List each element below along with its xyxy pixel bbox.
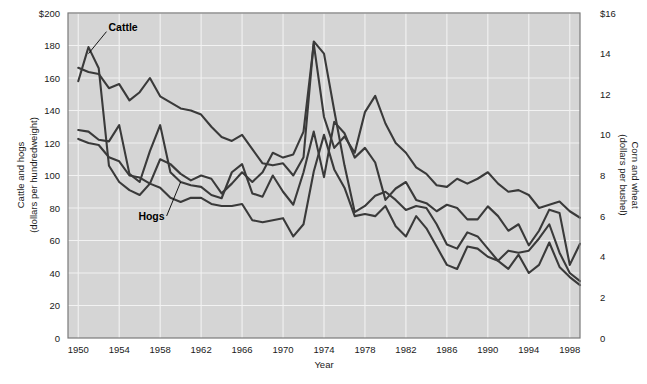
y-right-tick-label: 6 <box>600 211 605 222</box>
y-axis-right-title-line1: Corn and wheat <box>630 141 641 208</box>
x-tick-label: 1970 <box>272 344 293 355</box>
y-right-tick-label: 14 <box>600 48 611 59</box>
x-axis-title: Year <box>314 359 333 370</box>
y-left-tick-label: 120 <box>44 138 60 149</box>
line-chart: 1950195419581962196619701974197819821986… <box>0 0 647 384</box>
y-axis-left-title-line2: (dollars per hundredweight) <box>28 117 39 233</box>
y-left-tick-label: 160 <box>44 73 60 84</box>
series-label-cattle: Cattle <box>108 21 137 33</box>
y-right-tick-label: 2 <box>600 292 605 303</box>
y-right-tick-label: 4 <box>600 251 605 262</box>
x-tick-label: 1966 <box>232 344 253 355</box>
x-tick-label: 1994 <box>518 344 539 355</box>
y-right-tick-label: 10 <box>600 129 611 140</box>
y-left-tick-label: 0 <box>55 333 60 344</box>
x-tick-label: 1990 <box>477 344 498 355</box>
y-right-tick-label: 8 <box>600 170 605 181</box>
y-left-tick-label: 140 <box>44 105 60 116</box>
x-tick-label: 1962 <box>191 344 212 355</box>
y-right-tick-label: 12 <box>600 89 611 100</box>
x-tick-label: 1950 <box>68 344 89 355</box>
x-tick-label: 1982 <box>395 344 416 355</box>
y-left-tick-label: 80 <box>49 203 60 214</box>
y-right-tick-label: 0 <box>600 333 605 344</box>
x-tick-label: 1974 <box>313 344 334 355</box>
x-tick-label: 1998 <box>559 344 580 355</box>
y-left-tick-label: 40 <box>49 268 60 279</box>
y-axis-left-title-line1: Cattle and hogs <box>15 141 26 208</box>
x-tick-label: 1954 <box>109 344 130 355</box>
y-left-tick-label: 60 <box>49 235 60 246</box>
y-left-tick-label: 20 <box>49 300 60 311</box>
chart-container: 1950195419581962196619701974197819821986… <box>0 0 647 384</box>
y-left-tick-label: 100 <box>44 170 60 181</box>
y-axis-right-title-line2: (dollars per bushel) <box>618 134 629 215</box>
x-tick-label: 1978 <box>354 344 375 355</box>
x-tick-label: 1958 <box>150 344 171 355</box>
series-label-hogs: Hogs <box>138 210 164 222</box>
x-tick-label: 1986 <box>436 344 457 355</box>
y-left-tick-label: 180 <box>44 40 60 51</box>
y-right-tick-label: $16 <box>600 8 616 19</box>
y-left-tick-label: $200 <box>39 8 60 19</box>
